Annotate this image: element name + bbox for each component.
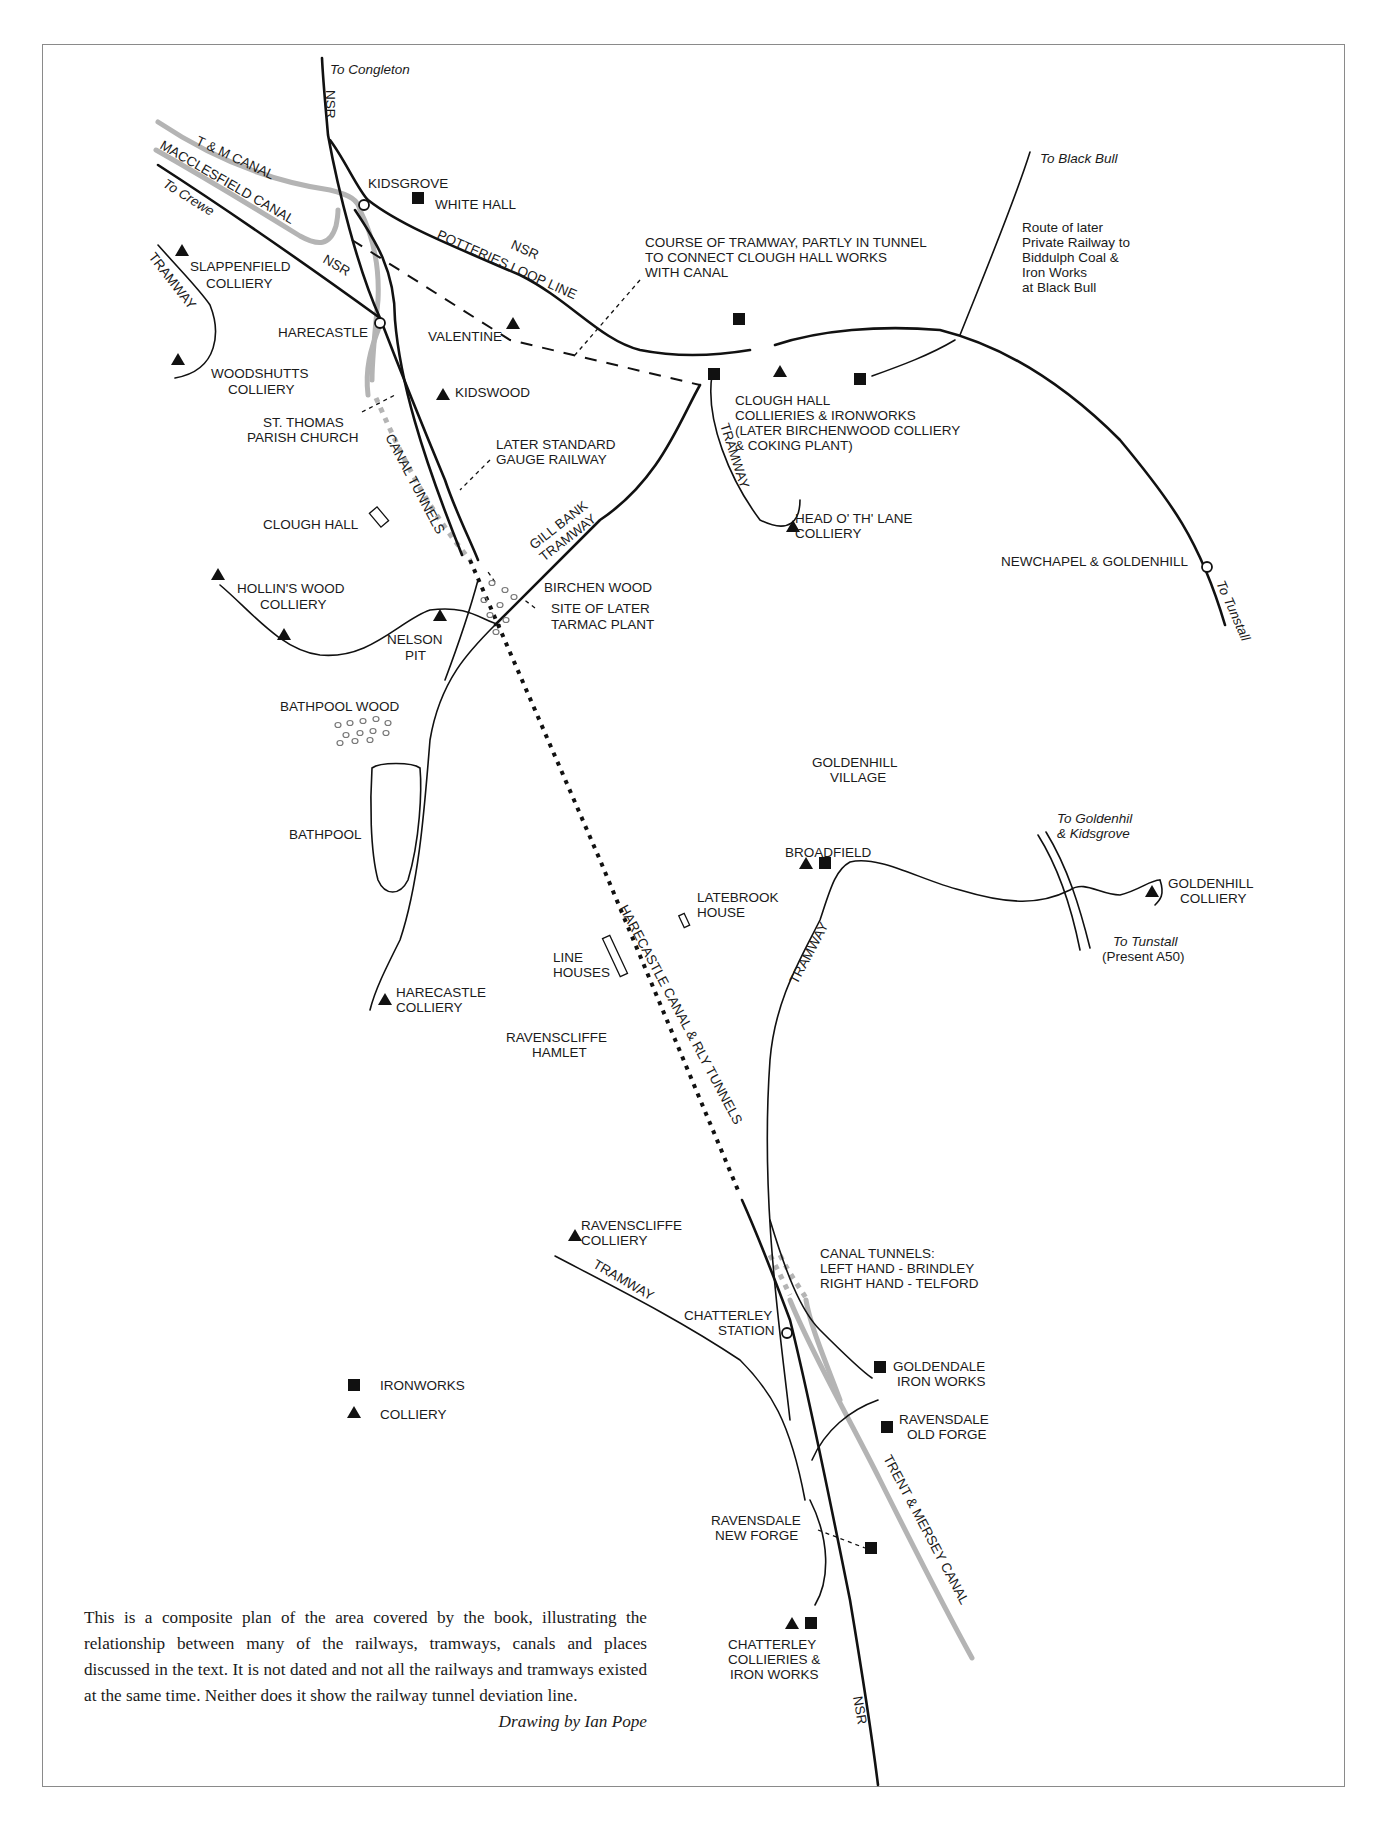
ironworks-icon [733,313,745,325]
label-goldenhill-colliery: GOLDENHILL [1168,876,1254,891]
legend: IRONWORKS COLLIERY [380,1378,465,1422]
label-ravenscliffe-colliery-2: COLLIERY [581,1233,648,1248]
note-biddulph-3: Biddulph Coal & [1022,250,1119,265]
label-village: VILLAGE [830,770,886,785]
note-course-tramway-1: COURSE OF TRAMWAY, PARTLY IN TUNNEL [645,235,927,250]
a50-road-2 [1046,832,1090,948]
note-biddulph-1: Route of later [1022,220,1104,235]
note-canal-tunnels-2: LEFT HAND - BRINDLEY [820,1261,974,1276]
ironworks-icon [854,373,866,385]
label-hollins-colliery: COLLIERY [260,597,327,612]
colliery-icon [1145,885,1159,897]
label-parish-church: PARISH CHURCH [247,430,359,445]
ironworks-icon [348,1379,360,1391]
colliery-icon [785,1617,799,1629]
label-harecastle: HARECASTLE [278,325,368,340]
label-clough-works-2: COLLIERIES & IRONWORKS [735,408,916,423]
map-caption: This is a composite plan of the area cov… [84,1605,647,1735]
label-tarmac-plant: TARMAC PLANT [551,617,654,632]
ironworks-icon [412,192,424,204]
label-chatterley-works-2: COLLIERIES & [728,1652,820,1667]
label-site-of-later: SITE OF LATER [551,601,650,616]
note-canal-tunnels-1: CANAL TUNNELS: [820,1246,935,1261]
legend-ironworks-label: IRONWORKS [380,1378,465,1393]
chatterley-works-spur [810,1500,826,1605]
label-nsr-north: NSR [323,90,338,119]
label-trent-mersey: TRENT & MERSEY CANAL [880,1452,972,1607]
label-station: STATION [718,1323,775,1338]
note-course-tramway-3: WITH CANAL [645,265,729,280]
label-goldendale: GOLDENDALE [893,1359,985,1374]
colliery-icon [347,1406,361,1418]
colliery-icon [277,628,291,640]
bathpool-branch-2 [445,580,478,680]
nsr-loop-east [775,328,1225,625]
label-old-forge: OLD FORGE [907,1427,987,1442]
label-goldenhill-colliery-2: COLLIERY [1180,891,1247,906]
label-slappenfield-colliery: COLLIERY [206,276,273,291]
colliery-icon [568,1229,582,1241]
label-houses: HOUSES [553,965,610,980]
label-clough-works-3: (LATER BIRCHENWOOD COLLIERY [735,423,960,438]
bathpool-wood-trees [335,717,391,746]
label-kidsgrove: KIDSGROVE [368,176,448,191]
label-valentine: VALENTINE [428,329,502,344]
note-later-gauge-2: GAUGE RAILWAY [496,452,607,467]
pointer-later-gauge [460,460,490,490]
label-broadfield: BROADFIELD [785,845,872,860]
label-chatterley-works-3: IRON WORKS [730,1667,819,1682]
colliery-icon [175,244,189,256]
label-goldendale-2: IRON WORKS [897,1374,986,1389]
label-ravensdale-old: RAVENSDALE [899,1412,989,1427]
label-pit: PIT [405,648,426,663]
colliery-icon [506,317,520,329]
line-labels: NSR NSR NSR POTTERIES LOOP LINE NSR T & … [146,90,972,1726]
label-st-thomas: ST. THOMAS [263,415,344,430]
chatterley-station [782,1328,792,1338]
label-clough-works-1: CLOUGH HALL [735,393,831,408]
colliery-icon [378,993,392,1005]
pointer-tarmac [522,598,535,608]
label-and-kidsgrove: & Kidsgrove [1057,826,1130,841]
label-to-tunstall-road: To Tunstall [1113,934,1179,949]
label-hollins-wood: HOLLIN'S WOOD [237,581,345,596]
label-nelson: NELSON [387,632,443,647]
label-harecastle-tunnels: HARECASTLE CANAL & RLY TUNNELS [616,902,745,1127]
label-ravenscliffe-hamlet: RAVENSCLIFFE [506,1030,607,1045]
label-harecastle-colliery: HARECASTLE [396,985,486,1000]
label-tramway-broadfield: TRAMWAY [786,920,831,987]
label-to-black-bull: To Black Bull [1040,151,1119,166]
label-bathpool-wood: BATHPOOL WOOD [280,699,400,714]
note-biddulph-2: Private Railway to [1022,235,1130,250]
latebrook-building [679,913,690,927]
label-bathpool: BATHPOOL [289,827,362,842]
canal-tunnel-north [376,398,470,560]
legend-colliery-label: COLLIERY [380,1407,447,1422]
ironworks-icon [881,1421,893,1433]
place-labels: KIDSGROVE WHITE HALL SLAPPENFIELD COLLIE… [190,176,1254,1682]
label-woodshutts: WOODSHUTTS [211,366,309,381]
composite-plan-map: To Congleton To Crewe To Black Bull To T… [0,0,1388,1833]
harecastle-station [375,318,385,328]
label-head-o-th-lane: HEAD O' TH' LANE [795,511,912,526]
colliery-icon [211,568,225,580]
bathpool-pond [371,764,421,893]
label-new-forge: NEW FORGE [715,1528,798,1543]
nsr-inner-loop [355,210,462,555]
tramway-clough-to-loop [872,340,955,376]
label-ravenscliffe-colliery: RAVENSCLIFFE [581,1218,682,1233]
tramway-black-bull [960,152,1030,335]
ironworks-icon [865,1542,877,1554]
label-latebrook: LATEBROOK [697,890,779,905]
caption-credit: Drawing by Ian Pope [499,1709,647,1735]
label-clough-hall: CLOUGH HALL [263,517,359,532]
ironworks-icon [874,1361,886,1373]
label-chatterley-works: CHATTERLEY [728,1637,816,1652]
label-kidswood: KIDSWOOD [455,385,530,400]
bathpool-branch [370,625,495,1010]
nsr-main-north [322,58,478,560]
label-head-colliery: COLLIERY [795,526,862,541]
harecastle-tunnel [470,560,740,1195]
label-to-goldenhil: To Goldenhil [1057,811,1133,826]
label-goldenhill-village: GOLDENHILL [812,755,898,770]
